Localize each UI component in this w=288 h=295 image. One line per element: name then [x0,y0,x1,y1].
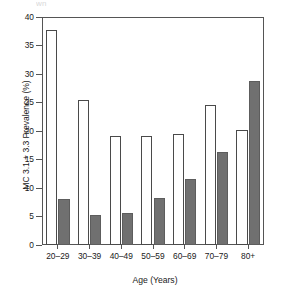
y-axis-tick [36,45,42,46]
y-axis-tick-label: 15 [0,155,34,163]
x-axis-tick [153,245,154,249]
x-axis-tick [184,245,185,249]
bar-filled-60-69 [185,179,196,245]
x-axis-tick-label: 80+ [218,252,278,261]
y-axis-tick-label: 20 [0,127,34,135]
bar-open-50-59 [141,136,152,245]
cut-off-caption-remnant-left: wn [36,0,47,7]
bar-filled-80+ [249,81,260,245]
x-axis-tick [89,245,90,249]
bar-open-80+ [236,130,247,245]
y-axis-tick [36,17,42,18]
x-axis-title: Age (Years) [40,275,270,285]
y-axis-tick-label: 40 [0,13,34,21]
y-axis-tick [36,131,42,132]
y-axis-tick [36,74,42,75]
y-axis-tick-label: 0 [0,241,34,249]
bar-open-60-69 [173,134,184,245]
y-axis-tick [36,102,42,103]
x-axis-tick [216,245,217,249]
bar-open-30-39 [78,100,89,245]
bar-filled-50-59 [154,198,165,245]
bar-filled-30-39 [90,215,101,245]
bar-filled-70-79 [217,152,228,245]
y-axis-tick-label: 35 [0,41,34,49]
y-axis-tick-label: 25 [0,98,34,106]
y-axis-tick-label: 10 [0,184,34,192]
x-axis-tick [57,245,58,249]
y-axis-tick-label: 30 [0,70,34,78]
y-axis-tick [36,188,42,189]
bar-open-70-79 [205,105,216,245]
chart-figure: wn MC 3.1 + 3.3 Prevalence (%) 051015202… [0,0,288,295]
bar-open-20-29 [46,30,57,245]
y-axis-tick-label: 5 [0,212,34,220]
x-axis-tick [121,245,122,249]
y-axis-tick [36,245,42,246]
y-axis-tick [36,159,42,160]
bar-open-40-49 [110,136,121,245]
y-axis-tick [36,216,42,217]
bar-filled-40-49 [122,213,133,245]
bar-filled-20-29 [58,199,69,245]
x-axis-tick [248,245,249,249]
